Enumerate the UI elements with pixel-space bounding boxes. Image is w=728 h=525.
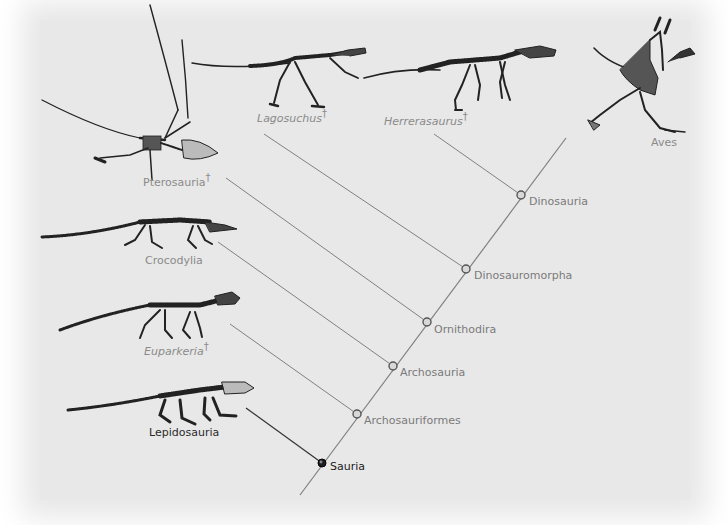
taxon-name: Euparkeria [144, 345, 204, 358]
lepidosauria-skeleton-icon [68, 382, 254, 424]
node-label-archosauria: Archosauria [400, 367, 465, 378]
taxon-label-lepidosauria: Lepidosauria [149, 427, 219, 438]
herrerasaurus-skeleton-icon [364, 46, 556, 110]
node-label-archosauriformes: Archosauriformes [364, 415, 461, 426]
node-label-dinosauria: Dinosauria [529, 196, 588, 207]
node-label-sauria: Sauria [330, 461, 365, 472]
extinct-dagger-icon: † [322, 108, 327, 119]
trunk-line [300, 138, 566, 495]
branch-lagosuchus [264, 134, 466, 269]
lagosuchus-skeleton-icon [192, 48, 366, 107]
taxon-label-crocodylia: Crocodylia [145, 255, 203, 266]
aves-skeleton-icon [588, 18, 695, 132]
node-label-dinosauromorpha: Dinosauromorpha [474, 270, 572, 281]
extinct-dagger-icon: † [463, 111, 468, 122]
branch-pterosauria [226, 178, 427, 322]
extinct-dagger-icon: † [204, 341, 209, 352]
cladogram [0, 0, 728, 525]
node-dinosauromorpha-icon [462, 265, 470, 273]
branch-lepidosauria [246, 408, 322, 463]
taxon-name: Aves [651, 136, 677, 149]
node-archosauria-icon [389, 362, 397, 370]
branch-herrerasaurus [434, 134, 521, 195]
crocodylia-skeleton-icon [42, 220, 237, 248]
euparkeria-skeleton-icon [60, 292, 240, 338]
taxon-name: Pterosauria [143, 176, 206, 189]
taxon-label-aves: Aves [651, 137, 677, 148]
node-sauria-icon [318, 459, 326, 467]
taxon-label-pterosauria: Pterosauria† [143, 177, 211, 188]
node-dinosauria-icon [517, 191, 525, 199]
branch-crocodylia [218, 242, 393, 366]
node-archosauriformes-icon [353, 410, 361, 418]
node-label-ornithodira: Ornithodira [434, 324, 496, 335]
taxon-name: Crocodylia [145, 254, 203, 267]
taxon-label-lagosuchus: Lagosuchus† [257, 113, 327, 124]
pterosaur-skeleton-icon [42, 5, 218, 180]
node-ornithodira-icon [423, 318, 431, 326]
branch-euparkeria [230, 324, 357, 414]
taxon-name: Lepidosauria [149, 426, 219, 439]
taxon-name: Herrerasaurus [384, 115, 463, 128]
taxon-name: Lagosuchus [257, 112, 322, 125]
extinct-dagger-icon: † [206, 172, 211, 183]
taxon-label-euparkeria: Euparkeria† [144, 346, 209, 357]
taxon-label-herrerasaurus: Herrerasaurus† [384, 116, 468, 127]
